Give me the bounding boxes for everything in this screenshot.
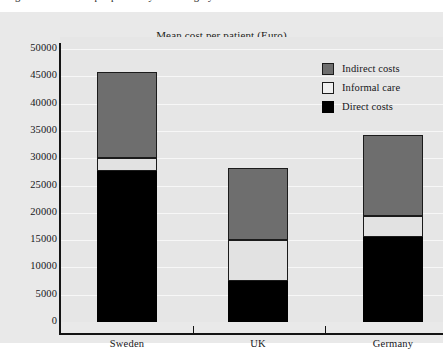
y-tick-label: 50000 (5, 42, 57, 53)
x-tick-label: Germany (343, 338, 443, 349)
y-tick-label: 20000 (5, 206, 57, 217)
y-tick-label: 10000 (5, 260, 57, 271)
bar-segment-indirect-costs[interactable] (363, 135, 423, 216)
y-tick-label: 30000 (5, 151, 57, 162)
y-tick-label: 25000 (5, 179, 57, 190)
legend-item-informal-care[interactable]: Informal care (322, 78, 434, 97)
y-tick-label: 15000 (5, 233, 57, 244)
figure-caption-strip: Figure 3. Mean cost per patient by cost … (0, 0, 443, 12)
y-tick-label: 45000 (5, 69, 57, 80)
bar-group[interactable] (228, 37, 288, 322)
legend-label-direct-costs: Direct costs (342, 101, 393, 112)
x-axis-tick-mark (193, 326, 194, 333)
legend-label-indirect-costs: Indirect costs (342, 63, 400, 74)
bar-segment-informal-care[interactable] (228, 240, 288, 281)
x-tick-label: Sweden (77, 338, 177, 349)
legend-label-informal-care: Informal care (342, 82, 400, 93)
y-tick-label: 0 (5, 315, 57, 326)
chart-panel: Mean cost per patient (Euro) 50000450004… (0, 12, 443, 343)
bar-segment-direct-costs[interactable] (228, 281, 288, 322)
y-tick-label: 40000 (5, 97, 57, 108)
bar-group[interactable] (97, 37, 157, 322)
y-tick-label: 35000 (5, 124, 57, 135)
figure-caption-text: Figure 3. Mean cost per patient by cost … (6, 0, 213, 2)
x-axis-line (59, 333, 443, 335)
bar-segment-direct-costs[interactable] (363, 237, 423, 322)
legend-item-direct-costs[interactable]: Direct costs (322, 97, 434, 116)
bar-segment-direct-costs[interactable] (97, 171, 157, 322)
informal-care-swatch (322, 82, 334, 94)
indirect-costs-swatch (322, 63, 334, 75)
chart-legend: Indirect costs Informal care Direct cost… (322, 59, 434, 116)
y-axis-tick-labels: 5000045000400003500030000250002000015000… (0, 12, 57, 343)
direct-costs-swatch (322, 101, 334, 113)
bar-segment-indirect-costs[interactable] (97, 72, 157, 158)
bar-segment-informal-care[interactable] (97, 158, 157, 171)
y-tick-label: 5000 (5, 288, 57, 299)
bar-segment-informal-care[interactable] (363, 216, 423, 237)
y-axis-line (59, 43, 61, 335)
legend-item-indirect-costs[interactable]: Indirect costs (322, 59, 434, 78)
bar-segment-indirect-costs[interactable] (228, 168, 288, 240)
x-axis-tick-mark (325, 326, 326, 333)
x-tick-label: UK (208, 338, 308, 349)
